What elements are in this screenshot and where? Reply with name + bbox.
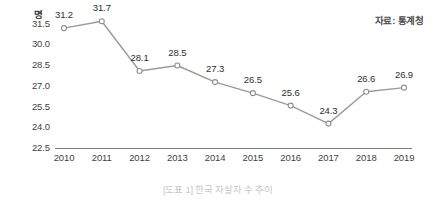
data-value-label: 27.3: [195, 63, 235, 74]
data-value-label: 31.2: [44, 9, 84, 20]
data-point-marker: [250, 91, 255, 96]
chart-figure: 명 자료: 통계청 31.530.028.527.025.524.022.5 2…: [0, 0, 436, 204]
figure-caption: [도표 1] 한국 자살자 수 추이: [0, 182, 436, 196]
y-axis-tick-label: 24.0: [16, 121, 50, 132]
data-point-marker: [213, 80, 218, 85]
data-point-marker: [326, 121, 331, 126]
data-point-marker: [364, 89, 369, 94]
data-value-label: 26.9: [384, 69, 424, 80]
data-point-marker: [99, 19, 104, 24]
data-value-label: 25.6: [271, 87, 311, 98]
y-axis-tick-label: 28.5: [16, 59, 50, 70]
data-point-marker: [288, 103, 293, 108]
data-value-label: 24.3: [308, 105, 348, 116]
y-axis-tick-label: 30.0: [16, 38, 50, 49]
data-point-marker: [137, 69, 142, 74]
x-axis-tick-label: 2019: [381, 152, 427, 163]
data-value-label: 26.6: [346, 73, 386, 84]
data-value-label: 31.7: [82, 2, 122, 13]
y-axis-tick-label: 25.5: [16, 101, 50, 112]
data-point-marker: [402, 85, 407, 90]
data-point-marker: [175, 63, 180, 68]
data-point-marker: [62, 26, 67, 31]
line-chart-plot: [0, 0, 436, 204]
data-value-label: 28.5: [157, 47, 197, 58]
data-value-label: 26.5: [233, 74, 273, 85]
data-value-label: 28.1: [120, 52, 160, 63]
y-axis-tick-label: 27.0: [16, 80, 50, 91]
